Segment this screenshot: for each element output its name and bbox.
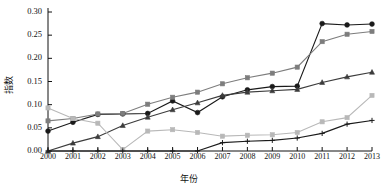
data-point-square xyxy=(295,130,299,134)
data-point-square xyxy=(345,116,349,120)
data-point-square xyxy=(171,95,175,99)
data-point-square xyxy=(146,102,150,106)
data-point-square xyxy=(146,129,150,133)
data-point-square xyxy=(96,112,100,116)
data-point-square xyxy=(345,32,349,36)
data-point-square xyxy=(121,111,125,115)
y-tick-label: 0.15 xyxy=(14,76,42,86)
data-point-square xyxy=(370,29,374,33)
data-point-square xyxy=(220,82,224,86)
data-point-plus xyxy=(295,135,300,140)
y-axis-label: 指数 xyxy=(2,63,15,107)
data-point-plus xyxy=(270,138,275,143)
data-point-square xyxy=(295,65,299,69)
data-point-square xyxy=(195,90,199,94)
data-point-triangle xyxy=(370,70,375,75)
data-point-plus xyxy=(369,118,374,123)
series-2-line xyxy=(48,31,372,120)
data-point-square xyxy=(245,133,249,137)
data-point-square xyxy=(320,40,324,44)
data-point-circle xyxy=(345,23,350,28)
data-point-square xyxy=(220,134,224,138)
data-point-square xyxy=(270,133,274,137)
y-tick-label: 0.05 xyxy=(14,122,42,132)
y-tick-label: 0.20 xyxy=(14,52,42,62)
data-point-square xyxy=(245,76,249,80)
series-1-group xyxy=(46,21,375,133)
data-point-square xyxy=(320,120,324,124)
data-point-plus xyxy=(220,140,225,145)
data-point-plus xyxy=(245,139,250,144)
series-4-group xyxy=(46,93,374,151)
data-point-square xyxy=(46,119,50,123)
y-tick-label: 0.30 xyxy=(14,6,42,16)
series-3-group xyxy=(46,70,375,153)
data-point-plus xyxy=(320,131,325,136)
x-tick-label: 2013 xyxy=(357,152,385,161)
y-tick-label: 0.25 xyxy=(14,29,42,39)
data-point-circle xyxy=(370,22,375,27)
y-tick-label: 0.10 xyxy=(14,99,42,109)
data-point-plus xyxy=(344,122,349,127)
data-point-square xyxy=(370,93,374,97)
data-point-circle xyxy=(195,110,200,115)
data-point-square xyxy=(46,106,50,110)
data-point-circle xyxy=(46,129,51,134)
series-2-group xyxy=(46,29,374,123)
data-point-square xyxy=(270,71,274,75)
data-point-square xyxy=(96,121,100,125)
data-point-square xyxy=(171,128,175,132)
data-point-square xyxy=(71,116,75,120)
x-axis-label: 年份 xyxy=(0,172,378,185)
data-point-square xyxy=(195,130,199,134)
data-point-circle xyxy=(320,21,325,26)
